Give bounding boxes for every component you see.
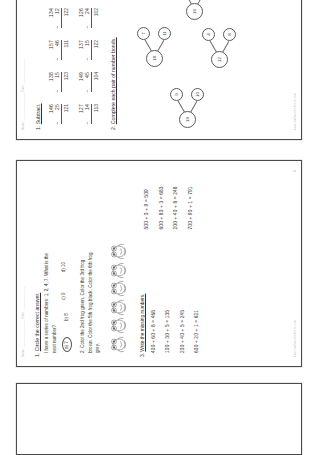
color-verb-3: Color <box>88 327 93 338</box>
number-bond[interactable]: 18 7 11 <box>137 9 171 67</box>
option-d-value: 10 <box>61 262 66 267</box>
equations-right-column: 500 + 0 + 9 = 509 600 + 80 + 3 = 683 200… <box>144 170 193 230</box>
frog-icon[interactable] <box>109 318 128 335</box>
option-a[interactable]: a) 7 <box>64 341 69 349</box>
number-bond[interactable]: 12 4 8 <box>202 10 236 68</box>
frog-icon[interactable] <box>109 336 128 353</box>
question-1-title: Circle the correct answer. <box>34 293 40 352</box>
minus-sign: − <box>84 89 90 92</box>
equation[interactable]: 600 + 20 + 1 = 621 <box>194 244 199 354</box>
difference: 122 <box>63 8 69 28</box>
subtraction-problem[interactable]: 157 − 46 111 <box>48 40 69 60</box>
worksheet-page-top: Name: _______________ Date: ____________… <box>16 0 302 140</box>
bond-child: 8 <box>223 28 236 41</box>
option-b[interactable]: b) 8 <box>64 313 69 321</box>
subtraction-problem[interactable]: 149 − 45 104 <box>78 72 99 92</box>
difference: 113 <box>93 104 99 124</box>
subtrahend: 24 <box>84 8 90 14</box>
q2-frag-6: grey. <box>95 343 100 353</box>
question-1-title: Subtract. <box>35 103 41 124</box>
difference: 104 <box>93 72 99 92</box>
question-1-heading: 1. Subtract. <box>35 0 41 130</box>
series-prompt: I have a series of numbers: 1, 2, 4, 7. <box>44 276 49 353</box>
question-3-title: Write the missing numbers. <box>140 294 145 352</box>
option-b-value: 8 <box>64 313 69 316</box>
subtrahend-row: − 12 <box>54 8 60 28</box>
series-prompt-underlined: What is the <box>44 253 49 276</box>
minus-sign: − <box>54 25 60 28</box>
subtrahend-row: − 15 <box>54 72 60 92</box>
series-prompt-line2: next number? <box>52 325 57 353</box>
subtrahend: 15 <box>84 40 90 46</box>
subtrahend-row: − 15 <box>84 40 90 60</box>
equation[interactable]: 600 + 80 + 3 = 683 <box>159 170 164 230</box>
subtraction-grid: 146 − 25 121 127 − 14 <box>48 0 99 124</box>
subtraction-problem[interactable]: 127 − 14 113 <box>78 104 99 124</box>
option-d-label: d) <box>61 268 66 272</box>
number-bond[interactable]: 19 9 10 <box>170 70 204 128</box>
equation[interactable]: 200 + 40 + 5 = 245 <box>180 244 185 354</box>
q2-frag-4: the 5th frog black. <box>88 288 93 327</box>
bond-child: 9 <box>170 88 183 101</box>
question-3-number: 3. <box>140 353 145 357</box>
frog-icon[interactable] <box>109 299 128 316</box>
equation[interactable]: 200 + 40 + 8 = 248 <box>173 170 178 230</box>
bond-child: 10 <box>191 88 204 101</box>
q2-frag-3: brown. <box>88 338 93 353</box>
number-bonds-area: 19 9 10 18 7 11 16 4 <box>124 0 220 128</box>
minus-sign: − <box>84 121 90 124</box>
bond-child: 7 <box>137 27 150 40</box>
page-header-name-date: Name: _______________ Date: ____________… <box>22 286 25 357</box>
page-number: 6 <box>293 170 297 172</box>
page-footer: www.mathworksheets.com <box>294 93 297 130</box>
option-d[interactable]: d) 10 <box>61 262 66 273</box>
subtraction-problem[interactable]: 138 − 15 123 <box>48 72 69 92</box>
equation[interactable]: 500 + 0 + 9 = 509 <box>144 170 149 230</box>
equation[interactable]: 400 + 60 + 8 = 468 <box>151 244 156 354</box>
subtrahend: 14 <box>84 104 90 110</box>
question-1-text: I have a series of numbers: 1, 2, 4, 7. … <box>43 244 58 354</box>
subtrahend-row: − 25 <box>54 104 60 124</box>
frog-icon[interactable] <box>109 262 128 279</box>
worksheet-page-bottom <box>16 383 302 455</box>
difference: 122 <box>93 40 99 60</box>
subtrahend: 46 <box>54 40 60 46</box>
subtrahend-row: − 45 <box>84 72 90 92</box>
color-verb-1: Color <box>80 337 85 348</box>
subtraction-problem[interactable]: 146 − 25 121 <box>48 104 69 124</box>
question-2-text: 2. Color the 2nd frog green. Color the 3… <box>79 244 101 354</box>
question-1-heading: 1. Circle the correct answer. <box>34 244 40 358</box>
subtraction-problem[interactable]: 134 − 12 122 <box>48 8 69 28</box>
answer-options-row-2: c) 9 d) 10 <box>61 244 66 301</box>
bond-child: 11 <box>158 27 171 40</box>
q2-frag-5: the 6th frog <box>88 252 93 277</box>
minus-sign: − <box>54 57 60 60</box>
subtrahend-row: − 14 <box>84 104 90 124</box>
equations-left-column: 400 + 60 + 8 = 468 100 + 30 + 5 = 135 20… <box>151 244 200 354</box>
page-footer: www.mathworksheets.com <box>294 320 297 357</box>
option-c[interactable]: c) 9 <box>61 292 66 300</box>
question-2-number: 2. <box>110 126 116 130</box>
subtraction-problem[interactable]: 137 − 15 122 <box>78 40 99 60</box>
difference: 102 <box>93 8 99 28</box>
q2-frag-2: the 3rd frog <box>80 260 85 285</box>
equation[interactable]: 100 + 30 + 5 = 135 <box>165 244 170 354</box>
subtrahend-row: − 46 <box>54 40 60 60</box>
bond-parent: 19 <box>179 111 196 128</box>
subtraction-problem[interactable]: 126 − 24 102 <box>78 8 99 28</box>
question-3-heading: 3. Write the missing numbers. <box>140 244 145 358</box>
subtrahend-row: − 24 <box>84 8 90 28</box>
bond-parent: 16 <box>186 3 203 20</box>
difference: 123 <box>63 72 69 92</box>
difference: 121 <box>63 104 69 124</box>
option-b-label: b) <box>64 317 69 321</box>
question-1-number: 1. <box>35 126 41 130</box>
subtraction-column: 146 − 25 121 127 − 14 <box>48 104 99 124</box>
frog-icon[interactable] <box>109 281 128 298</box>
frog-icon[interactable] <box>109 244 128 261</box>
frog-row <box>109 244 128 354</box>
subtraction-column: 134 − 12 122 126 − 24 <box>48 8 99 28</box>
subtrahend: 45 <box>84 72 90 78</box>
equation[interactable]: 700 + 90 + 1 = 791 <box>188 170 193 230</box>
